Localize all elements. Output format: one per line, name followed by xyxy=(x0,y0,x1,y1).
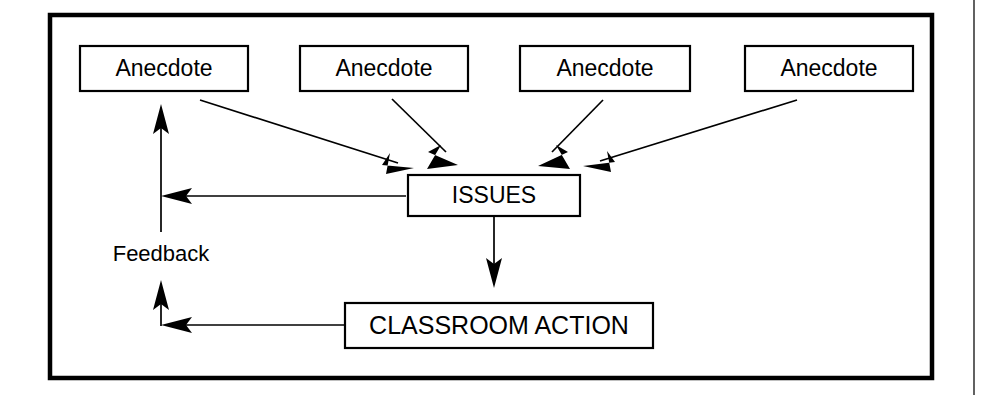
node-anecdote-3-label: Anecdote xyxy=(556,55,653,81)
node-issues-label: ISSUES xyxy=(452,182,536,208)
arrow-head-icon xyxy=(382,153,414,174)
edge-anecdote2-to-issues xyxy=(392,99,458,169)
edge-issues-to-action xyxy=(486,217,502,288)
edge-anecdote4-to-issues xyxy=(583,100,797,172)
edge-anecdote1-to-issues xyxy=(200,100,414,174)
node-anecdote-2-label: Anecdote xyxy=(335,55,432,81)
node-anecdote-2[interactable]: Anecdote xyxy=(300,46,468,91)
edge-feedback-to-anecdote1 xyxy=(153,104,169,232)
edge-anecdote3-to-issues xyxy=(538,100,603,169)
flowchart-diagram: Anecdote Anecdote Anecdote Anecdote ISSU… xyxy=(0,0,991,395)
node-classroom-action[interactable]: CLASSROOM ACTION xyxy=(345,303,653,348)
node-anecdote-1[interactable]: Anecdote xyxy=(80,46,248,91)
arrow-head-icon xyxy=(538,145,570,169)
node-anecdote-4-label: Anecdote xyxy=(780,55,877,81)
node-classroom-action-label: CLASSROOM ACTION xyxy=(369,311,629,339)
node-anecdote-3[interactable]: Anecdote xyxy=(520,46,690,91)
edge-action-to-feedback-channel xyxy=(161,317,344,333)
edge-issues-to-feedback-channel xyxy=(161,188,406,204)
node-anecdote-1-label: Anecdote xyxy=(115,55,212,81)
diagram-canvas: Anecdote Anecdote Anecdote Anecdote ISSU… xyxy=(0,0,991,395)
edge-feedback-lower-riser xyxy=(153,280,169,326)
node-anecdote-4[interactable]: Anecdote xyxy=(745,46,913,91)
feedback-label: Feedback xyxy=(113,241,211,266)
node-issues[interactable]: ISSUES xyxy=(408,175,580,216)
arrow-head-icon xyxy=(583,151,615,172)
